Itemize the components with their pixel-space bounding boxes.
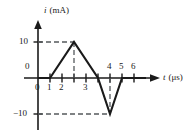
x-tick-label-5: 5	[119, 62, 124, 71]
x-tick-label-6: 6	[131, 62, 136, 71]
x-tick-label-4: 4	[107, 62, 112, 71]
x-axis-unit: (μs)	[169, 72, 183, 82]
y-axis-symbol: i	[44, 5, 47, 15]
x-tick-label-3: 3	[83, 83, 88, 92]
y-tick-label-10: 10	[19, 37, 28, 46]
y-tick-label-minus-10: −10	[13, 109, 27, 118]
current-waveform-figure: i(mA) t(μs) 10 0 −10 0 1 2 3 4 5 6	[0, 0, 195, 138]
y-axis-unit: (mA)	[50, 5, 70, 15]
x-axis-symbol: t	[163, 72, 166, 82]
x-tick-label-2: 2	[59, 83, 64, 92]
y-axis-label: i(mA)	[44, 6, 69, 15]
x-tick-label-0: 0	[35, 83, 40, 92]
x-axis-label: t(μs)	[163, 73, 183, 82]
x-tick-label-1: 1	[47, 83, 52, 92]
y-tick-label-0: 0	[25, 62, 30, 71]
